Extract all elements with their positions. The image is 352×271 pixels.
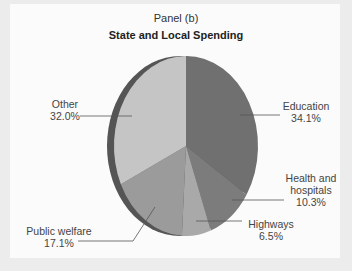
label-health-name-line1: Health and <box>270 172 352 184</box>
label-public-welfare-value: 17.1% <box>14 237 104 249</box>
label-public-welfare: Public welfare 17.1% <box>14 225 104 249</box>
label-health: Health and hospitals 10.3% <box>270 172 352 208</box>
label-other-name: Other <box>40 98 90 110</box>
label-education-name: Education <box>268 100 344 112</box>
label-other-value: 32.0% <box>40 110 90 122</box>
label-education: Education 34.1% <box>268 100 344 124</box>
label-highways-value: 6.5% <box>236 230 306 242</box>
label-health-name-line2: hospitals <box>270 184 352 196</box>
label-health-value: 10.3% <box>270 196 352 208</box>
label-highways: Highways 6.5% <box>236 218 306 242</box>
label-highways-name: Highways <box>236 218 306 230</box>
label-other: Other 32.0% <box>40 98 90 122</box>
label-public-welfare-name: Public welfare <box>14 225 104 237</box>
pie-slices <box>114 56 258 236</box>
label-education-value: 34.1% <box>268 112 344 124</box>
